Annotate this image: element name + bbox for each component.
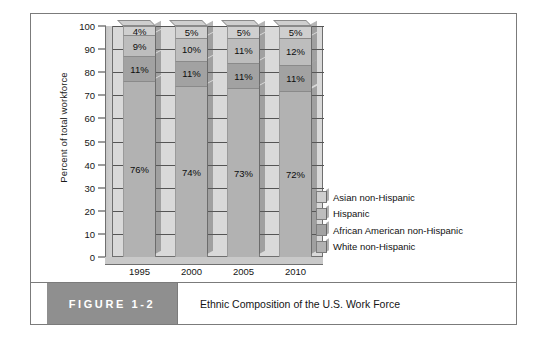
bar-2000: 5%10%11%74% [175,26,208,257]
bar-segment: 11% [227,63,260,88]
caption-spacer [31,283,47,324]
bar-1995: 4%9%11%76% [123,26,156,257]
y-tick-label-60: 60 [59,113,95,124]
x-axis-labels: 1995200020052010 [105,266,330,282]
chart-legend: Asian non-HispanicHispanicAfrican Americ… [316,189,516,255]
bar-segment-label: 72% [286,169,305,180]
bar-segment: 11% [175,61,208,86]
y-tick-label-20: 20 [59,205,95,216]
bar-segment-label: 11% [234,71,252,82]
figure-frame: Percent of total workforce 0102030405060… [30,13,517,325]
legend-swatch-icon [316,241,327,253]
bar-segment: 74% [175,86,208,257]
bar-segment-label: 12% [286,46,305,57]
y-tick-label-30: 30 [59,182,95,193]
bar-segment-side-face [207,32,213,57]
bar-segment-label: 11% [234,45,252,56]
y-axis-tick-labels: 0102030405060708090100 [59,26,95,262]
bar-segment: 72% [279,91,312,257]
legend-item-label: African American non-Hispanic [333,225,463,236]
bar-segment: 11% [279,65,312,90]
figure-number-tag: FIGURE 1-2 [47,283,178,324]
bar-top-face [273,20,312,26]
bar-segment-side-face [259,32,265,60]
plot-box: 4%9%11%76%5%10%11%74%5%11%11%73%5%12%11%… [105,26,323,264]
y-tick-label-90: 90 [59,44,95,55]
bar-segment-label: 11% [182,68,200,79]
legend-item-2: African American non-Hispanic [316,222,516,239]
y-tick-label-80: 80 [59,67,95,78]
bar-segment: 12% [279,38,312,66]
bar-segment-label: 10% [182,44,201,55]
y-tick-label-50: 50 [59,136,95,147]
bar-segment-side-face [155,51,161,79]
y-tick-label-0: 0 [59,252,95,263]
figure-caption-bar: FIGURE 1-2 Ethnic Composition of the U.S… [31,282,516,324]
legend-swatch-icon [316,208,327,220]
bar-segment: 4% [123,26,156,35]
bar-top-face [169,20,208,26]
legend-item-label: Asian non-Hispanic [333,192,415,203]
bar-segment-side-face [207,81,213,254]
bar-segment: 5% [227,26,260,38]
bar-segment-label: 74% [182,167,201,178]
bar-segment-side-face [155,30,161,53]
bar-2010: 5%12%11%72% [279,26,312,257]
bar-segment-label: 5% [289,27,303,38]
bar-segment-side-face [259,58,265,86]
x-axis-label-2000: 2000 [169,266,215,277]
bar-segment-label: 5% [237,27,251,38]
bar-segment: 11% [227,38,260,63]
bar-segment-side-face [311,60,317,88]
legend-swatch-icon [316,224,327,236]
x-axis-label-1995: 1995 [117,266,163,277]
y-tick-label-100: 100 [59,21,95,32]
y-tick-label-10: 10 [59,228,95,239]
legend-item-label: Hispanic [333,208,369,219]
bar-segment-side-face [311,32,317,62]
x-axis-label-2010: 2010 [273,266,319,277]
bar-segment: 5% [279,26,312,38]
bar-segment-label: 76% [130,164,149,175]
bar-segment: 5% [175,26,208,38]
bar-segment-side-face [259,83,265,254]
bar-segment: 10% [175,38,208,61]
y-tick-label-40: 40 [59,159,95,170]
bar-segment-label: 5% [185,27,199,38]
legend-item-1: Hispanic [316,206,516,223]
legend-item-label: White non-Hispanic [333,241,415,252]
legend-item-3: White non-Hispanic [316,239,516,256]
bar-top-face [221,20,260,26]
bar-segment-label: 9% [133,41,147,52]
bar-segment-label: 73% [234,168,253,179]
x-axis-label-2005: 2005 [221,266,267,277]
bar-segment: 76% [123,81,156,257]
y-tick-label-70: 70 [59,90,95,101]
figure-caption-text: Ethnic Composition of the U.S. Work Forc… [178,283,516,324]
bar-2005: 5%11%11%73% [227,26,260,257]
bar-segment-side-face [155,76,161,254]
bar-segment: 9% [123,35,156,56]
bar-segment-side-face [207,55,213,83]
bar-segment: 73% [227,88,260,257]
legend-swatch-icon [316,191,327,203]
bar-segment-label: 11% [130,64,148,75]
legend-item-0: Asian non-Hispanic [316,189,516,206]
plot-floor [105,257,323,265]
bar-top-face [117,20,156,26]
bar-segment-label: 11% [286,73,304,84]
bar-segment: 11% [123,56,156,81]
